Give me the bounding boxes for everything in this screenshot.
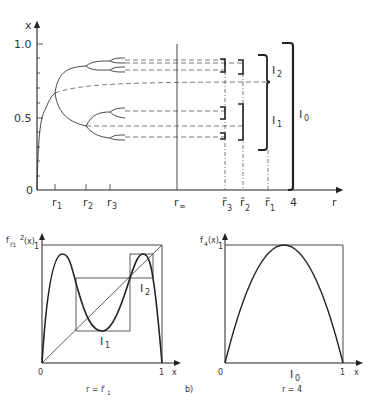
label-I2: I [272, 64, 275, 77]
bracket-I1 [258, 85, 267, 150]
svg-text:∞: ∞ [179, 202, 186, 211]
second-iterate-map-plot: f 2 r̃1 (x) 1 0 1 x I 1 I 2 r = r̃ 1 b) [6, 234, 193, 396]
caption: r = r̃ [86, 385, 105, 394]
y-axis-label: f [6, 236, 9, 245]
svg-text:1: 1 [277, 120, 282, 129]
x-tick-0: 0 [38, 368, 43, 377]
x-tick-0: 0 [218, 368, 223, 377]
y-tick-1.0: 1.0 [14, 38, 32, 51]
svg-text:1: 1 [107, 389, 111, 396]
bracket-rt2-upper [238, 60, 243, 74]
label-I2: I [140, 282, 143, 295]
x-axis-label: x [172, 368, 177, 377]
svg-text:1: 1 [105, 341, 110, 350]
svg-text:3: 3 [112, 202, 117, 211]
I1-square [76, 278, 130, 331]
svg-text:2: 2 [145, 288, 150, 297]
tick-4: 4 [290, 196, 297, 209]
caption: r = 4 [282, 385, 302, 394]
x-axis-label: r [332, 196, 337, 209]
y-tick-1: 1 [218, 242, 223, 251]
label-I1: I [100, 335, 103, 348]
y-tick-1: 1 [34, 242, 39, 251]
svg-text:1: 1 [57, 202, 62, 211]
label-I1: I [272, 114, 275, 127]
y-axis-label: f [200, 236, 203, 245]
y-tick-0.5: 0.5 [14, 112, 32, 125]
figure: x 1.0 0.5 0 r 1 r 2 r 3 r ∞ r̃ 3 r̃ 2 r̃… [0, 0, 378, 415]
svg-text:1: 1 [270, 204, 275, 213]
svg-text:0: 0 [295, 374, 300, 383]
svg-text:r̃1: r̃1 [10, 241, 16, 248]
label-I0: I [290, 368, 293, 381]
bifurcation-branches [37, 58, 125, 190]
bracket-I2 [258, 55, 270, 85]
svg-text:2: 2 [245, 204, 250, 213]
bracket-I0 [282, 43, 293, 190]
svg-text:3: 3 [227, 204, 232, 213]
bracket-rt3-middle [220, 107, 225, 119]
f4-curve [225, 245, 343, 363]
y-axis-label: x [25, 19, 32, 32]
svg-text:2: 2 [277, 70, 282, 79]
svg-text:0: 0 [304, 114, 309, 123]
bifurcation-diagram: x 1.0 0.5 0 r 1 r 2 r 3 r ∞ r̃ 3 r̃ 2 r̃… [14, 19, 340, 213]
label-I0: I [299, 108, 302, 121]
x-tick-1: 1 [340, 368, 345, 377]
x-tick-1: 1 [159, 368, 164, 377]
bracket-rt2-lower [238, 104, 243, 140]
panel-label-b: b) [185, 385, 193, 394]
logistic-map-r4-plot: f 4 (x) 1 0 1 x I 0 r = 4 [200, 236, 360, 394]
svg-text:2: 2 [88, 202, 93, 211]
x-axis-label: x [354, 368, 359, 377]
y-tick-0: 0 [26, 184, 33, 197]
bracket-rt3-lower [220, 133, 225, 139]
